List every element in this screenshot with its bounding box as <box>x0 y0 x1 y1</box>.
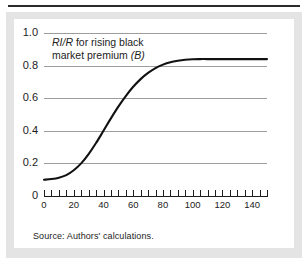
x-minor-tick <box>133 190 134 196</box>
x-minor-tick <box>96 190 97 196</box>
gridline <box>44 98 267 99</box>
x-minor-tick <box>200 190 201 196</box>
x-minor-tick <box>66 190 67 196</box>
x-minor-tick <box>185 190 186 196</box>
y-tick-label: 0.4 <box>4 124 38 136</box>
x-minor-tick <box>51 190 52 196</box>
x-minor-tick <box>81 190 82 196</box>
x-minor-tick <box>74 190 75 196</box>
x-minor-tick <box>118 190 119 196</box>
x-minor-tick <box>59 190 60 196</box>
x-minor-tick <box>230 190 231 196</box>
x-tick-label: 60 <box>118 199 148 210</box>
x-minor-tick <box>193 190 194 196</box>
gridline <box>44 66 267 67</box>
x-minor-tick <box>215 190 216 196</box>
x-minor-tick <box>89 190 90 196</box>
x-minor-tick <box>208 190 209 196</box>
annotation-line1-rest: for rising black <box>73 36 144 48</box>
x-axis-line <box>44 196 268 197</box>
x-tick-label: 120 <box>207 199 237 210</box>
x-minor-tick <box>267 190 268 196</box>
annotation-italic-lead: RI/R <box>52 36 73 48</box>
y-tick-label: 0.6 <box>4 91 38 103</box>
x-minor-tick <box>104 190 105 196</box>
x-tick-label: 140 <box>237 199 267 210</box>
y-tick-label: 1.0 <box>4 26 38 38</box>
x-minor-tick <box>252 190 253 196</box>
x-minor-tick <box>141 190 142 196</box>
gridline <box>44 33 267 34</box>
x-minor-tick <box>163 190 164 196</box>
x-tick-label: 40 <box>89 199 119 210</box>
x-minor-tick <box>178 190 179 196</box>
x-tick-label: 100 <box>178 199 208 210</box>
x-minor-tick <box>237 190 238 196</box>
x-minor-tick <box>156 190 157 196</box>
chart-annotation: RI/R for rising black market premium (B) <box>52 36 192 62</box>
gridline <box>44 163 267 164</box>
x-tick-label: 20 <box>59 199 89 210</box>
x-minor-tick <box>222 190 223 196</box>
x-tick-label: 80 <box>148 199 178 210</box>
gridline <box>44 131 267 132</box>
plot-area: 00.20.40.60.81.0 020406080100120140 RI/R… <box>0 0 308 268</box>
y-tick-label: 0.2 <box>4 156 38 168</box>
x-minor-tick <box>148 190 149 196</box>
figure-container: 00.20.40.60.81.0 020406080100120140 RI/R… <box>0 0 308 268</box>
y-tick-label: 0.8 <box>4 59 38 71</box>
x-minor-tick <box>245 190 246 196</box>
annotation-italic-tail: (B) <box>131 49 145 61</box>
annotation-line2-rest: market premium <box>52 49 131 61</box>
x-minor-tick <box>170 190 171 196</box>
x-minor-tick <box>126 190 127 196</box>
source-note: Source: Authors' calculations. <box>33 231 154 241</box>
x-tick-label: 0 <box>29 199 59 210</box>
x-minor-tick <box>44 190 45 196</box>
x-minor-tick <box>260 190 261 196</box>
x-minor-tick <box>111 190 112 196</box>
